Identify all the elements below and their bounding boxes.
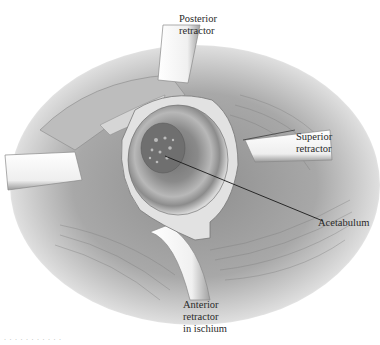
label-line: retractor xyxy=(296,143,332,155)
label-line: Anterior xyxy=(183,299,227,311)
anterior-retractor-label: Anterior retractor in ischium xyxy=(183,299,227,335)
label-line: Superior xyxy=(296,131,332,143)
acetabulum-exposure-drawing xyxy=(0,0,380,345)
label-line: in ischium xyxy=(183,323,227,335)
figure-caption: · · · · · · · · · · · xyxy=(4,337,62,343)
acetabulum-label: Acetabulum xyxy=(318,217,369,229)
superior-retractor-label: Superior retractor xyxy=(296,131,332,155)
label-line: Posterior xyxy=(179,13,217,25)
label-line: retractor xyxy=(183,311,227,323)
surgical-illustration: Posterior retractor Superior retractor A… xyxy=(0,0,380,345)
acetabular-fossa xyxy=(141,123,185,173)
label-line: retractor xyxy=(179,25,217,37)
posterior-retractor-label: Posterior retractor xyxy=(179,13,217,37)
label-line: Acetabulum xyxy=(318,217,369,229)
